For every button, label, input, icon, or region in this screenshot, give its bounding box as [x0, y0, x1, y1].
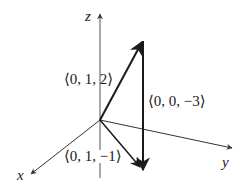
z-axis-label: z	[84, 8, 91, 24]
vector-label-0-1-2: ⟨0, 1, 2⟩	[64, 71, 113, 87]
vector-label-0-1-neg1: ⟨0, 1, −1⟩	[64, 148, 122, 164]
x-axis-label: x	[16, 167, 24, 183]
y-axis-label: y	[220, 154, 229, 170]
x-axis	[31, 120, 100, 174]
vector-label-0-0-neg3: ⟨0, 0, −3⟩	[148, 93, 206, 109]
vector-diagram: z x y ⟨0, 1, 2⟩ ⟨0, 0, −3⟩ ⟨0, 1, −1⟩	[0, 0, 240, 185]
